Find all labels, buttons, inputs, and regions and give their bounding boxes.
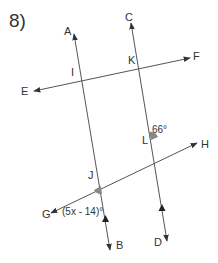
line-gh <box>51 143 197 213</box>
angle-label-j: (5x - 14)° <box>62 206 103 217</box>
label-h: H <box>201 138 209 150</box>
label-d: D <box>154 236 162 248</box>
label-l: L <box>142 134 148 146</box>
label-e: E <box>21 85 28 97</box>
line-ef <box>34 58 190 91</box>
label-j: J <box>88 169 94 181</box>
diagram-canvas: A B C D E F G H I J K L 66° (5x - 14)° <box>0 0 218 263</box>
angle-mark-j <box>94 186 102 194</box>
geometry-diagram: 8) A B C D E F G H I J K L <box>0 0 218 263</box>
angle-label-l: 66° <box>152 124 167 135</box>
label-f: F <box>193 50 200 62</box>
label-c: C <box>125 11 133 23</box>
label-i: I <box>71 66 74 78</box>
label-k: K <box>128 54 136 66</box>
label-a: A <box>64 25 72 37</box>
problem-number: 8) <box>9 10 26 32</box>
label-g: G <box>42 208 51 220</box>
label-b: B <box>116 239 123 251</box>
parallel-mark-cd <box>159 204 166 211</box>
